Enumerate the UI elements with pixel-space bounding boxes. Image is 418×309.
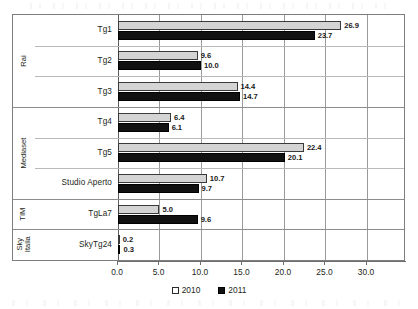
group-separator [13,229,404,230]
bar-2011-tg1 [118,31,315,40]
x-tick [324,261,325,265]
bar-value-label: 14.4 [241,82,256,91]
bar-value-label: 6.1 [172,123,182,132]
chart-legend: 20102011 [0,285,418,295]
category-label: Tg4 [98,117,112,126]
group-label-text: Mediaset [20,137,28,168]
group-label-column: RaiMediasetTIMSkyItalia [13,15,35,260]
legend-item-2010: 2010 [172,285,201,295]
scan-artifact-bottom [12,300,407,306]
filled-square-swatch [218,287,225,294]
bar-value-label: 20.1 [288,153,303,162]
bar-value-label: 0.3 [123,245,133,254]
group-label-text: SkyItalia [16,237,32,253]
bar-2010-tg1 [118,21,341,30]
category-separator [35,168,404,169]
bar-value-label: 10.0 [204,61,219,70]
bar-value-label: 26.9 [344,21,359,30]
bar-value-label: 22.4 [307,143,322,152]
bar-2011-tg4 [118,123,169,132]
x-tick-label: 5.0 [153,267,165,277]
bar-2011-studio-aperto [118,184,199,193]
group-label-rai: Rai [13,15,35,107]
group-label-mediaset: Mediaset [13,107,35,199]
bar-2010-tg4 [118,113,171,122]
x-tick [158,261,159,265]
x-tick [117,261,118,265]
category-separator [35,46,404,47]
x-tick-label: 20.0 [275,267,291,277]
group-label-tim: TIM [13,199,35,230]
category-separator [35,138,404,139]
bar-value-label: 5.0 [162,205,172,214]
x-axis: 0.05.010.015.020.025.030.0 [117,261,405,262]
bar-value-label: 0.2 [123,235,133,244]
category-label: Tg5 [98,148,112,157]
bar-2010-tgla7 [118,205,159,214]
x-tick-label: 0.0 [111,267,123,277]
x-tick-label: 30.0 [358,267,374,277]
bar-value-label: 9.6 [201,215,211,224]
group-separator [13,199,404,200]
category-label: SkyTg24 [79,240,112,249]
legend-label: 2011 [228,285,246,295]
open-square-swatch [172,287,179,294]
category-label: Tg1 [98,25,112,34]
x-tick-label: 15.0 [233,267,249,277]
bar-2011-tg5 [118,153,285,162]
bar-2011-tg3 [118,92,240,101]
bar-2011-tgla7 [118,215,198,224]
bar-value-label: 14.7 [243,92,258,101]
x-axis-line [117,261,406,262]
legend-label: 2010 [182,285,201,295]
x-tick [283,261,284,265]
group-separator [13,107,404,108]
x-tick-label: 25.0 [316,267,332,277]
bar-chart: RaiMediasetTIMSkyItalia Tg1Tg2Tg3Tg4Tg5S… [0,0,418,309]
category-separator [35,76,404,77]
category-label: Tg2 [98,56,112,65]
category-label: Tg3 [98,87,112,96]
x-tick [200,261,201,265]
bar-2011-skytg24 [118,245,120,254]
bar-2010-studio-aperto [118,174,207,183]
bar-value-label: 23.7 [318,31,333,40]
x-tick-label: 10.0 [192,267,208,277]
bar-2011-tg2 [118,61,201,70]
bar-2010-tg3 [118,82,238,91]
x-tick [366,261,367,265]
x-tick [241,261,242,265]
bar-value-label: 6.4 [174,113,184,122]
bar-value-label: 10.7 [210,174,225,183]
bar-2010-skytg24 [118,235,120,244]
group-label-text: TIM [20,208,28,221]
category-label: TgLa7 [88,209,112,218]
bar-2010-tg5 [118,143,304,152]
group-label-sky-italia: SkyItalia [13,229,35,260]
bar-value-label: 9.6 [201,51,211,60]
plot-area: RaiMediasetTIMSkyItalia Tg1Tg2Tg3Tg4Tg5S… [12,14,405,261]
bar-2010-tg2 [118,51,198,60]
bar-value-label: 9.7 [202,184,212,193]
group-label-text: Rai [20,55,28,66]
scan-artifact-top [30,3,390,9]
category-label: Studio Aperto [62,178,112,187]
legend-item-2011: 2011 [218,285,246,295]
